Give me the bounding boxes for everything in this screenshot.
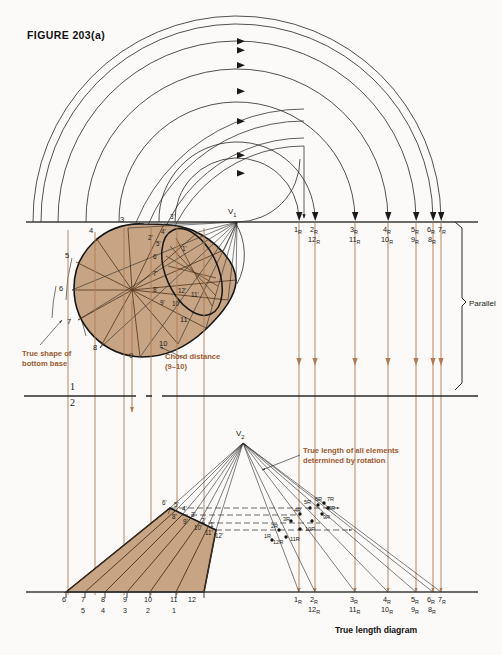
projection-lines-right bbox=[299, 222, 441, 592]
top-point-6: 6 bbox=[59, 285, 63, 293]
top-point-3: 3 bbox=[120, 216, 124, 224]
parallel-bracket-label: Parallel bbox=[469, 300, 496, 308]
tl-top-label-10: 10R bbox=[381, 236, 393, 246]
rot-2r-text: 2R bbox=[271, 523, 278, 529]
arc-family bbox=[33, 16, 441, 222]
rot-point-7r: 7R bbox=[327, 497, 334, 503]
rot-point-4r: 4R bbox=[294, 508, 301, 514]
apex-label-v1: V1 bbox=[228, 208, 236, 218]
top-point-5: 5 bbox=[65, 252, 69, 260]
tl-bot-label-10: 10R bbox=[381, 606, 393, 616]
top-ellipse-point-5p: 5' bbox=[156, 241, 161, 247]
front-element-10p: 10' bbox=[194, 525, 202, 531]
top-ellipse-point-3p: 3' bbox=[170, 214, 175, 220]
fold-line-lower-label: 2 bbox=[70, 398, 75, 408]
rot-1r-text: 1R bbox=[264, 533, 271, 539]
top-ellipse-point-4p: 4' bbox=[161, 229, 166, 235]
tl-bot-10-sub: R bbox=[389, 609, 393, 615]
rot-6r-text: 6R bbox=[315, 496, 322, 502]
base-tick-7: 7 bbox=[81, 596, 85, 603]
apex-v2-subscript: 2 bbox=[241, 434, 244, 440]
top-point-11: 11 bbox=[180, 316, 188, 324]
base-tick-1b: 1 bbox=[172, 607, 176, 614]
tl-bot-11-sub: R bbox=[357, 609, 361, 615]
arc-terminal-arrows bbox=[296, 212, 444, 221]
annotation-chord-line2: (9–10) bbox=[165, 362, 220, 372]
tl-bot-9-sub: R bbox=[415, 609, 419, 615]
top-ellipse-point-6p: 6' bbox=[153, 254, 158, 260]
top-ellipse-point-9p: 9' bbox=[160, 300, 165, 306]
apex-label-v2: V2 bbox=[236, 430, 244, 440]
tl-top-7-sub: R bbox=[442, 229, 446, 235]
rot-5r-text: 5R bbox=[304, 499, 311, 505]
tl-bot-label-11: 11R bbox=[349, 606, 360, 616]
tl-bot-10-num: 10 bbox=[381, 605, 389, 614]
annotation-chord-distance: Chord distance (9–10) bbox=[165, 352, 220, 373]
rot-9r-text: 9R bbox=[323, 514, 330, 520]
arc-direction-arrows bbox=[237, 38, 245, 176]
base-tick-9: 9 bbox=[123, 596, 127, 603]
rot-12r-text: 12R bbox=[273, 539, 283, 545]
figure-page: FIGURE 203(a) V1 3 4 5 6 7 8 9 10 11 3' … bbox=[0, 0, 502, 655]
top-ellipse-point-11p: 11' bbox=[191, 292, 199, 298]
top-ellipse-point-7p: 7' bbox=[153, 271, 158, 277]
top-point-4: 4 bbox=[89, 227, 93, 235]
projection-mid-arrows bbox=[296, 358, 443, 366]
tl-bot-1-sub: R bbox=[298, 599, 302, 605]
base-tick-12: 12 bbox=[188, 596, 196, 603]
annotation-chord-line1: Chord distance bbox=[165, 352, 220, 362]
tl-top-label-8: 8R bbox=[428, 236, 436, 246]
rot-point-5r: 5R bbox=[304, 500, 311, 506]
base-tick-5b: 5 bbox=[81, 607, 85, 614]
annotation-true-length: True length of all elements determined b… bbox=[303, 446, 399, 467]
tl-top-5-sub: R bbox=[415, 229, 419, 235]
rot-point-11r: 11R bbox=[290, 537, 300, 543]
top-point-9: 9 bbox=[129, 352, 133, 360]
top-point-8: 8 bbox=[93, 344, 97, 352]
front-element-8p: 8' bbox=[172, 514, 177, 520]
tl-top-8-sub: R bbox=[432, 239, 436, 245]
front-element-6p: 6' bbox=[162, 500, 167, 506]
front-view-cone bbox=[66, 508, 216, 592]
tl-bot-12-sub: R bbox=[316, 609, 320, 615]
rot-point-2r: 2R bbox=[271, 524, 278, 530]
tl-bot-label-12: 12R bbox=[308, 606, 320, 616]
tl-top-1-sub: R bbox=[298, 229, 302, 235]
rot-7r-text: 7R bbox=[327, 496, 334, 502]
rot-point-3r: 3R bbox=[283, 517, 290, 523]
tl-top-12-num: 12 bbox=[308, 235, 316, 244]
figure-caption: True length diagram bbox=[335, 626, 417, 635]
rot-4r-text: 4R bbox=[294, 507, 301, 513]
tl-bot-label-7: 7R bbox=[438, 596, 446, 606]
parallel-bracket bbox=[455, 222, 466, 390]
front-element-11p: 11' bbox=[205, 530, 213, 536]
tl-bot-11-num: 11 bbox=[349, 605, 357, 614]
tl-top-label-11: 11R bbox=[349, 236, 360, 246]
true-shape-leader bbox=[40, 320, 62, 345]
tl-top-label-7: 7R bbox=[438, 226, 446, 236]
front-element-1p: 1' bbox=[210, 522, 215, 528]
top-ellipse-point-10p: 10' bbox=[172, 301, 180, 307]
front-element-9p: 9' bbox=[183, 519, 188, 525]
engineering-drawing-canvas bbox=[0, 0, 502, 655]
rot-point-9r: 9R bbox=[323, 515, 330, 521]
figure-title: FIGURE 203(a) bbox=[27, 30, 105, 41]
base-tick-2b: 2 bbox=[146, 607, 150, 614]
top-ellipse-point-12p: 12' bbox=[178, 288, 186, 294]
annotation-true-length-line2: determined by rotation bbox=[303, 456, 399, 466]
annotation-true-length-line1: True length of all elements bbox=[303, 446, 399, 456]
tl-bot-label-8: 8R bbox=[428, 606, 436, 616]
base-tick-4b: 4 bbox=[101, 607, 105, 614]
rot-point-10r: 10R bbox=[305, 527, 315, 533]
rot-11r-text: 11R bbox=[290, 536, 300, 542]
annotation-true-shape: True shape of bottom base bbox=[22, 349, 71, 370]
tl-bot-label-9: 9R bbox=[411, 606, 419, 616]
rot-point-8r: 8R bbox=[328, 506, 335, 512]
top-point-10: 10 bbox=[159, 340, 167, 348]
top-point-7: 7 bbox=[67, 318, 71, 326]
tl-top-label-12: 12R bbox=[308, 236, 320, 246]
rot-point-6r: 6R bbox=[315, 497, 322, 503]
base-tick-10: 10 bbox=[144, 596, 152, 603]
tl-top-11-num: 11 bbox=[349, 235, 357, 244]
tl-top-10-num: 10 bbox=[381, 235, 389, 244]
